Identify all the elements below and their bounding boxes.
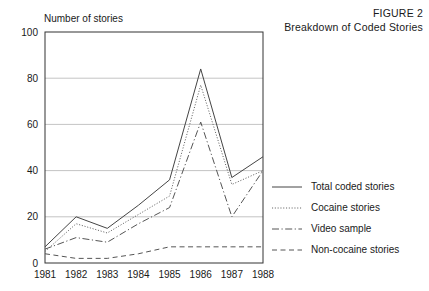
series-line (45, 69, 263, 247)
legend-item-label: Cocaine stories (311, 202, 380, 213)
x-axis-tick-label: 1981 (34, 269, 57, 280)
dotted-line-icon (272, 203, 302, 213)
dashed-line-icon (272, 245, 302, 255)
chart-legend: Total coded storiesCocaine storiesVideo … (272, 176, 424, 260)
y-axis-tick-label: 0 (32, 258, 38, 269)
x-axis-tick-label: 1986 (190, 269, 213, 280)
legend-item: Total coded stories (272, 176, 424, 197)
y-axis-tick-label: 60 (27, 119, 39, 130)
plot-area: 0204060801001981198219831984198519861987… (0, 0, 280, 291)
legend-item-label: Non-cocaine stories (311, 244, 399, 255)
series-line (45, 247, 263, 259)
legend-item: Video sample (272, 218, 424, 239)
line-chart: 0204060801001981198219831984198519861987… (0, 0, 280, 291)
x-axis-tick-label: 1983 (96, 269, 119, 280)
figure-container: FIGURE 2 Breakdown of Coded Stories Numb… (0, 0, 429, 291)
y-axis-tick-label: 80 (27, 73, 39, 84)
solid-line-icon (272, 182, 302, 192)
y-axis-tick-label: 100 (21, 27, 38, 38)
figure-caption: FIGURE 2 Breakdown of Coded Stories (284, 6, 423, 34)
x-axis-tick-label: 1984 (127, 269, 150, 280)
x-axis-tick-label: 1985 (158, 269, 181, 280)
plot-frame (45, 32, 263, 263)
y-axis-tick-label: 20 (27, 211, 39, 222)
x-axis-tick-label: 1982 (65, 269, 88, 280)
legend-item: Cocaine stories (272, 197, 424, 218)
y-axis-tick-label: 40 (27, 165, 39, 176)
figure-title: Breakdown of Coded Stories (284, 20, 423, 34)
legend-item-label: Video sample (311, 223, 371, 234)
legend-item: Non-cocaine stories (272, 239, 424, 260)
x-axis-tick-label: 1988 (252, 269, 275, 280)
figure-number: FIGURE 2 (284, 6, 423, 20)
x-axis-tick-label: 1987 (221, 269, 244, 280)
dash-dot-line-icon (272, 224, 302, 234)
series-line (45, 85, 263, 251)
series-line (45, 122, 263, 249)
legend-item-label: Total coded stories (311, 181, 394, 192)
